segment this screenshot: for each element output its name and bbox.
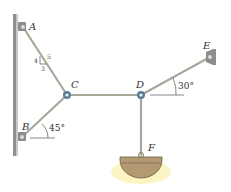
label-B: B [21, 121, 29, 132]
cable-system-diagram: A B C D E F 4 3 5 45° 30° [0, 0, 231, 192]
label-E: E [202, 40, 211, 51]
angle-arc-B [42, 124, 48, 138]
label-A: A [28, 21, 36, 32]
label-D: D [135, 79, 144, 90]
right-wall-support [213, 49, 216, 65]
members [22, 27, 210, 155]
angle-label-B: 45° [49, 123, 65, 133]
pin-D [137, 91, 145, 99]
angle-label-D: 30° [178, 81, 194, 91]
slope-rise: 4 [34, 57, 38, 64]
support-B [18, 132, 26, 141]
support-A [18, 22, 26, 31]
pin-C [63, 91, 71, 99]
label-C: C [71, 79, 79, 90]
member-AC [23, 27, 67, 95]
support-E [206, 49, 213, 65]
slope-hyp: 5 [47, 53, 51, 60]
left-wall [13, 14, 18, 156]
label-F: F [147, 142, 156, 153]
slope-run: 3 [41, 65, 45, 72]
angle-arc-D [173, 78, 176, 95]
member-DE [141, 57, 210, 95]
